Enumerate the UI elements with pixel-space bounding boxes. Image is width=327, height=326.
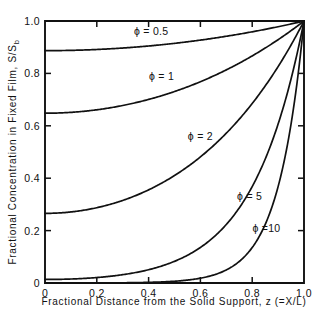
y-axis-title-main: Fractional Concentration in Fixed Film, …	[7, 44, 18, 264]
y-tick-label: 0.2	[24, 225, 40, 237]
y-axis-title: Fractional Concentration in Fixed Film, …	[7, 39, 21, 264]
curve-phi-5	[45, 21, 304, 279]
y-tick-label: 0.6	[24, 120, 40, 132]
curve-label: ϕ =10	[252, 222, 280, 234]
y-axis-tick-labels: 00.20.40.60.81.0	[24, 15, 40, 289]
curve-label: ϕ = 0.5	[134, 25, 169, 37]
y-tick-label: 1.0	[24, 15, 40, 27]
y-tick-label: 0	[34, 277, 40, 289]
data-curves	[45, 21, 304, 283]
y-axis-ticks	[45, 73, 304, 230]
curve-phi-10	[45, 21, 304, 283]
curve-annotations: ϕ = 0.5ϕ = 1ϕ = 2ϕ = 5ϕ =10	[134, 25, 281, 234]
y-tick-label: 0.8	[24, 67, 40, 79]
y-tick-label: 0.4	[24, 172, 40, 184]
curve-label: ϕ = 2	[188, 130, 213, 142]
x-axis-ticks	[97, 21, 252, 283]
curve-phi-1	[45, 21, 304, 113]
y-axis-title-subscript: b	[12, 39, 21, 44]
svg-text:Fractional Distance from th: Fractional Distance from the Solid Suppo…	[41, 296, 306, 307]
svg-text:Fractional Concentration in: Fractional Concentration in Fixed Film, …	[7, 39, 21, 264]
plot-frame	[45, 21, 304, 283]
chart-canvas: 00.20.40.60.81.0 00.20.40.60.81.0 ϕ = 0.…	[0, 0, 327, 326]
figure-container: 00.20.40.60.81.0 00.20.40.60.81.0 ϕ = 0.…	[0, 0, 327, 326]
x-axis-title: Fractional Distance from the Solid Suppo…	[41, 296, 306, 307]
curve-label: ϕ = 1	[149, 70, 174, 82]
curve-phi-0-5	[45, 21, 304, 51]
curve-label: ϕ = 5	[237, 190, 262, 202]
